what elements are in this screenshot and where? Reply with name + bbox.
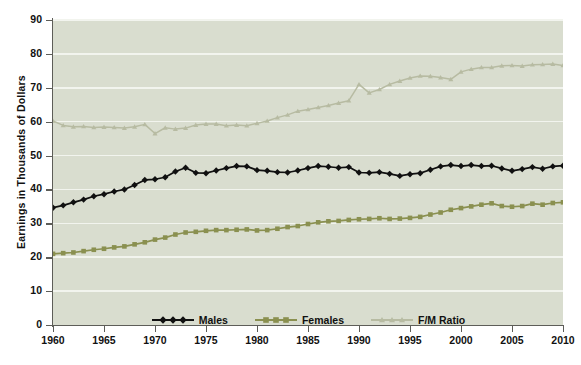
y-tick-0 [46,325,52,326]
data-point [245,227,250,232]
data-point [418,215,423,220]
data-point [367,217,372,222]
data-point [356,169,362,175]
data-point [102,246,107,251]
x-tick-label-1965: 1965 [79,334,129,346]
data-point [193,170,199,176]
x-tick-label-1975: 1975 [181,334,231,346]
data-point [305,165,311,171]
y-tick-40 [46,189,52,190]
x-tick-label-1970: 1970 [130,334,180,346]
data-point [357,82,362,86]
plot-area: MalesFemalesF/M Ratio [53,20,563,325]
data-point [233,163,239,169]
data-point [101,191,107,197]
data-point [519,166,525,172]
y-tick-70 [46,88,52,89]
data-point [438,210,443,215]
series-line [53,64,563,133]
x-tick-2010 [563,326,564,332]
x-tick-1960 [53,326,54,332]
series-layer [53,20,563,325]
data-point [214,228,219,233]
data-point [479,202,484,207]
data-point [551,201,556,206]
data-point [428,212,433,217]
y-axis-line [52,18,53,327]
data-point [285,225,290,230]
data-point [459,206,464,211]
data-point [347,218,352,223]
data-point [529,164,535,170]
y-tick-label-60: 60 [2,115,42,127]
data-point [489,201,494,206]
data-point [234,227,239,232]
y-tick-30 [46,223,52,224]
x-tick-1975 [206,326,207,332]
data-point [550,163,556,169]
data-point [121,186,127,192]
data-point [408,216,413,221]
y-tick-label-0: 0 [2,318,42,330]
data-point [366,170,372,176]
x-tick-1990 [359,326,360,332]
data-point [427,167,433,173]
chart-figure: Earnings in Thousands of Dollars MalesFe… [0,0,581,365]
data-point [509,168,515,174]
data-point [336,219,341,224]
data-point [91,193,97,199]
data-point [122,244,127,249]
data-point [182,165,188,171]
data-point [172,168,178,174]
x-tick-1965 [104,326,105,332]
x-tick-1995 [410,326,411,332]
data-point [81,249,86,254]
y-tick-50 [46,156,52,157]
data-point [478,163,484,169]
data-point [203,170,209,176]
series-line [53,165,563,208]
data-point [255,228,260,233]
data-point [377,216,382,221]
x-tick-label-2010: 2010 [538,334,581,346]
data-point [152,176,158,182]
data-point [296,224,301,229]
data-point [316,220,321,225]
data-point [244,163,250,169]
y-tick-label-10: 10 [2,284,42,296]
data-point [325,164,331,170]
x-tick-2005 [512,326,513,332]
y-tick-80 [46,54,52,55]
data-point [183,230,188,235]
data-point [80,196,86,202]
series-females [53,200,563,256]
data-point [499,165,505,171]
data-point [224,228,229,233]
x-tick-label-1985: 1985 [283,334,333,346]
data-point [153,237,158,242]
data-point [284,169,290,175]
data-point [61,251,66,256]
data-point [112,245,117,250]
data-point [223,165,229,171]
data-point [437,163,443,169]
data-point [386,171,392,177]
data-point [53,205,56,211]
data-point [510,204,515,209]
data-point [387,217,392,222]
data-point [560,163,563,169]
data-point [346,164,352,170]
data-point [488,163,494,169]
data-point [407,171,413,177]
data-point [561,200,563,205]
data-point [264,168,270,174]
data-point [500,204,505,209]
data-point [111,188,117,194]
data-point [70,199,76,205]
y-tick-label-30: 30 [2,216,42,228]
series-line [53,202,563,254]
data-point [163,235,168,240]
data-point [448,162,454,168]
data-point [540,202,545,207]
data-point [132,242,137,247]
